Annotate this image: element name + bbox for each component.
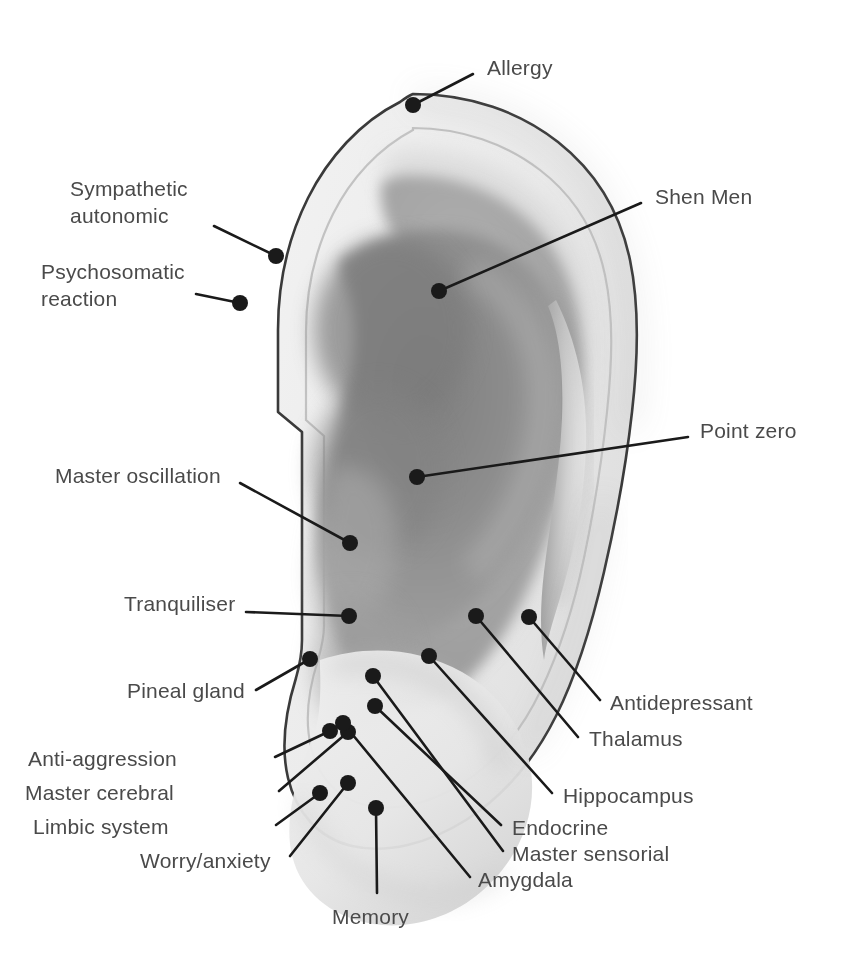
point-marker-allergy[interactable] (405, 97, 421, 113)
point-marker-sympathetic-autonomic[interactable] (268, 248, 284, 264)
point-label-endocrine: Endocrine (512, 814, 608, 841)
point-label-allergy: Allergy (487, 54, 553, 81)
point-label-point-zero: Point zero (700, 417, 797, 444)
leader-line-memory (376, 808, 377, 893)
point-label-master-cerebral: Master cerebral (25, 779, 174, 806)
point-label-sympathetic-autonomic: Sympathetic autonomic (70, 175, 188, 229)
point-label-thalamus: Thalamus (589, 725, 683, 752)
point-marker-thalamus[interactable] (468, 608, 484, 624)
point-marker-worry-anxiety[interactable] (340, 775, 356, 791)
point-label-shen-men: Shen Men (655, 183, 752, 210)
point-marker-psychosomatic-reaction[interactable] (232, 295, 248, 311)
point-label-amygdala: Amygdala (478, 866, 573, 893)
ear-acupuncture-diagram: AllergySympathetic autonomicShen MenPsyc… (0, 0, 842, 979)
point-marker-endocrine[interactable] (367, 698, 383, 714)
point-label-pineal-gland: Pineal gland (127, 677, 245, 704)
point-label-hippocampus: Hippocampus (563, 782, 694, 809)
point-label-master-oscillation: Master oscillation (55, 462, 221, 489)
point-label-limbic-system: Limbic system (33, 813, 169, 840)
point-marker-antidepressant[interactable] (521, 609, 537, 625)
point-marker-pineal-gland[interactable] (302, 651, 318, 667)
point-marker-limbic-system[interactable] (312, 785, 328, 801)
point-marker-master-oscillation[interactable] (342, 535, 358, 551)
point-label-master-sensorial: Master sensorial (512, 840, 669, 867)
point-marker-hippocampus[interactable] (421, 648, 437, 664)
point-label-worry-anxiety: Worry/anxiety (140, 847, 271, 874)
leader-line-sympathetic-autonomic (214, 226, 276, 256)
point-label-memory: Memory (332, 903, 409, 930)
point-label-psychosomatic-reaction: Psychosomatic reaction (41, 258, 185, 312)
point-marker-shen-men[interactable] (431, 283, 447, 299)
point-label-tranquiliser: Tranquiliser (124, 590, 235, 617)
point-label-antidepressant: Antidepressant (610, 689, 753, 716)
point-marker-point-zero[interactable] (409, 469, 425, 485)
point-marker-master-sensorial[interactable] (365, 668, 381, 684)
point-marker-tranquiliser[interactable] (341, 608, 357, 624)
point-marker-memory[interactable] (368, 800, 384, 816)
point-label-anti-aggression: Anti-aggression (28, 745, 177, 772)
point-marker-amygdala[interactable] (335, 715, 351, 731)
